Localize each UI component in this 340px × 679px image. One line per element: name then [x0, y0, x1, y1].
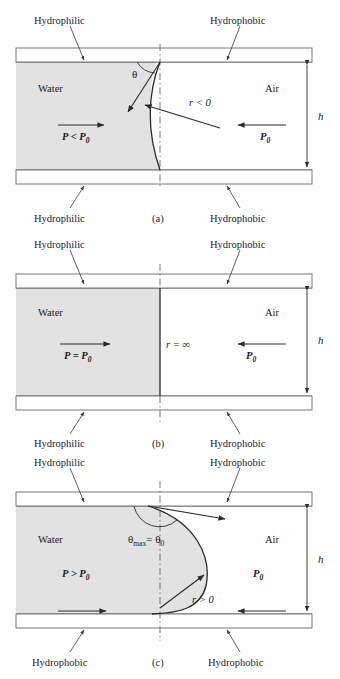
height-label-b: h	[318, 334, 324, 346]
panel-c: θmax= θ0 r > 0 P > P0 P0 Water Air h	[0, 451, 340, 679]
top-wall-a	[16, 48, 312, 62]
bottom-left-wall-leader-b	[70, 412, 84, 434]
bottom-wall-a	[16, 170, 312, 184]
radius-label-a: r < 0	[189, 97, 211, 108]
bottom-right-wall-leader-a	[227, 186, 240, 208]
right-pressure-label-b: P0	[246, 350, 256, 364]
bottom-left-wall-label-a: Hydrophilic	[34, 213, 85, 224]
bottom-left-wall-leader-c	[70, 630, 84, 652]
bottom-right-wall-label-c: Hydrophobic	[208, 657, 264, 668]
air-label-c: Air	[265, 534, 280, 545]
water-label-c: Water	[38, 534, 63, 545]
panel-b-drawing: r = ∞ P = P0 P0 Water Air h Hydrophilic …	[0, 226, 340, 451]
panel-a-drawing: θ r < 0 P < P0 P0 Water Air h	[0, 0, 340, 226]
panel-b: r = ∞ P = P0 P0 Water Air h Hydrophilic …	[0, 226, 340, 451]
panel-caption-a: (a)	[152, 213, 164, 225]
bottom-right-wall-label-a: Hydrophobic	[210, 213, 266, 224]
top-left-wall-label-b: Hydrophilic	[34, 239, 85, 250]
panel-caption-c: (c)	[152, 657, 164, 669]
bottom-right-wall-leader-c	[227, 630, 240, 652]
bottom-left-wall-label-b: Hydrophilic	[34, 438, 85, 449]
panel-a: θ r < 0 P < P0 P0 Water Air h	[0, 0, 340, 226]
top-right-wall-label-b: Hydrophobic	[210, 239, 266, 250]
panel-caption-b: (b)	[152, 438, 165, 450]
bottom-left-wall-label-c: Hydrophobic	[32, 657, 88, 668]
bottom-wall-c	[16, 614, 312, 628]
panel-c-drawing: θmax= θ0 r > 0 P > P0 P0 Water Air h	[0, 451, 340, 679]
water-region-c	[16, 506, 207, 614]
top-wall-c	[16, 492, 312, 506]
radius-label-c: r > 0	[192, 594, 214, 605]
angle-label-a: θ	[132, 68, 137, 80]
top-left-wall-label-c: Hydrophilic	[34, 457, 85, 468]
top-wall-b	[16, 274, 312, 288]
right-pressure-label-c: P0	[253, 568, 263, 582]
top-right-wall-label-c: Hydrophobic	[210, 457, 266, 468]
radius-label-b: r = ∞	[166, 339, 190, 350]
bottom-left-wall-leader-a	[70, 186, 84, 208]
bottom-right-wall-leader-b	[227, 412, 240, 434]
bottom-right-wall-label-b: Hydrophobic	[210, 438, 266, 449]
water-label-a: Water	[38, 83, 63, 94]
bottom-wall-b	[16, 396, 312, 410]
top-left-wall-label-a: Hydrophilic	[34, 15, 85, 26]
right-pressure-label-a: P0	[260, 131, 270, 145]
water-label-b: Water	[38, 307, 63, 318]
height-label-c: h	[318, 553, 324, 565]
top-right-wall-label-a: Hydrophobic	[210, 15, 266, 26]
figure-container: θ r < 0 P < P0 P0 Water Air h	[0, 0, 340, 679]
radius-leader-a	[145, 105, 220, 128]
water-region-a	[16, 62, 160, 170]
height-label-a: h	[318, 110, 324, 122]
air-label-b: Air	[265, 307, 280, 318]
water-region-b	[16, 288, 160, 396]
air-label-a: Air	[265, 83, 280, 94]
